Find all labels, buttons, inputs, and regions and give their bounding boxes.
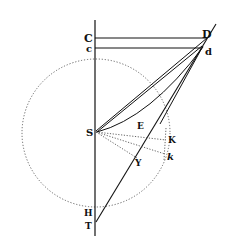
label-Y: Y — [134, 158, 142, 168]
dotted-line-K-k — [164, 128, 166, 160]
label-T: T — [85, 221, 92, 231]
dotted-line-SY — [96, 132, 137, 158]
dotted-line-Sk — [96, 132, 165, 154]
label-K: K — [168, 135, 177, 145]
geometry-diagram: C c D d S E K k Y H T — [0, 0, 230, 251]
dotted-circle — [22, 59, 170, 207]
label-S: S — [86, 127, 93, 138]
line-Sd — [97, 46, 202, 132]
label-D: D — [202, 28, 212, 41]
line-SD — [96, 38, 207, 131]
label-E: E — [137, 121, 144, 131]
line-dK — [160, 46, 203, 124]
label-d: d — [205, 46, 212, 57]
label-H: H — [84, 208, 93, 218]
label-c: c — [86, 43, 92, 54]
dotted-line-SK — [96, 132, 166, 140]
label-k: k — [167, 151, 174, 162]
